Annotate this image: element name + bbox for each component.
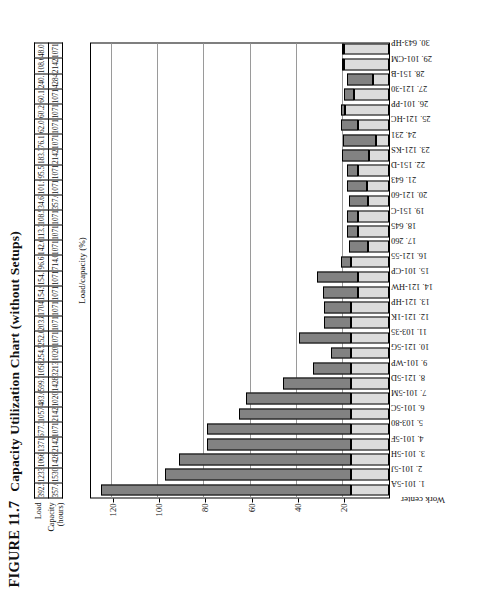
bar-segment-base [351,392,389,404]
x-tick-label: 21. 643 [391,174,416,183]
bar-segment-top [207,423,351,435]
bar-segment-base [351,362,389,374]
y-tick-label: 120 [108,503,118,516]
bar [207,423,389,435]
bar-segment-top [317,271,357,283]
table-cell-capacity: 1530.0 [49,467,63,482]
bar-segment-base [368,195,389,207]
table-cell-load: 76.1 [35,134,49,149]
x-tick-label: 5. 103-80 [391,417,423,426]
bar-segment-top [347,210,357,222]
table-cell-capacity: 2142.0 [49,149,63,164]
table-cell-capacity: 1071.0 [49,210,63,225]
bar-segment-top [347,180,367,192]
y-tick-label: 80 [200,503,210,512]
bar-segment-base [358,286,389,298]
bar [341,104,389,116]
table-cell-capacity: 1071.0 [49,103,63,118]
bar-segment-top [324,316,350,328]
table-cell-capacity: 1071.0 [49,225,63,240]
bar [246,392,389,404]
table-cell-capacity: 10710.0 [49,300,63,315]
bar-segment-top [341,119,358,131]
x-tick-label: 26. 101-PP [391,98,428,107]
table-cell-load: 1057.3 [35,407,49,422]
table-cell-load: 183.3 [35,149,49,164]
bar [283,377,389,389]
table-row-label-load: Load [35,502,44,519]
table-cell-load: 96.6 [35,255,49,270]
table-cell-capacity: 714.0 [49,255,63,270]
bar-segment-top [207,438,351,450]
bar [349,195,389,207]
x-axis-labels: 1. 101-5A2. 101-5J3. 101-5H4. 101-5F5. 1… [391,42,478,498]
bar-segment-top [324,301,350,313]
bar [343,134,389,146]
bar [342,149,389,161]
x-tick-label: 25. 121-HC [391,113,431,122]
bar-segment-base [344,58,389,70]
table-cell-capacity: 1071.0 [49,179,63,194]
capacity-utilization-chart: Load/capacity (%) 20406080100120 1. 101-… [90,42,390,498]
bar-segment-top [323,286,358,298]
bar [165,468,389,480]
x-tick-label: 22. 151-D [391,159,425,168]
y-tick-label: 100 [154,503,164,516]
bar [343,43,389,55]
x-tick-label: 11. 103-35 [391,326,427,335]
y-tick-mark [205,498,206,502]
bar-segment-base [351,423,389,435]
bar [239,408,389,420]
x-tick-label: 24. 231 [391,129,416,138]
figure-number: FIGURE 11.7 [6,500,22,587]
bar-segment-top [343,134,376,146]
y-axis-title: Load/capacity (%) [77,42,87,498]
bar-segment-base [351,438,389,450]
table-cell-capacity: 357.0 [49,194,63,209]
table-cell-load: 108.5 [35,210,49,225]
table-cell-capacity: 1428.0 [49,452,63,467]
y-tick-mark [252,498,253,502]
table-cell-capacity: 4284.0 [49,73,63,88]
table-cell-load: 392.5 [35,482,49,497]
bar-segment-top [342,43,344,55]
table-cell-capacity: 1428.0 [49,376,63,391]
bar-segment-top [344,88,354,100]
table-cell-capacity: 1071.0 [49,270,63,285]
y-tick-mark [298,498,299,502]
table-cell-load: 95.5 [35,164,49,179]
bar-segment-base [344,43,389,55]
bar-segment-top [246,392,351,404]
x-tick-label: 3. 101-5H [391,448,425,457]
bar-segment-base [351,408,389,420]
bar [313,362,389,374]
table-cell-load: 203.8 [35,316,49,331]
table-cell-capacity: 1071.0 [49,331,63,346]
bar-segment-base [358,271,389,283]
table-cell-load: 677.3 [35,422,49,437]
bar-segment-top [347,225,357,237]
bar [341,256,389,268]
table-cell-capacity: 1071.0 [49,285,63,300]
x-tick-label: 1. 101-5A [391,478,425,487]
x-tick-label: 13. 121-HP [391,296,430,305]
table-cell-load: 154.3 [35,270,49,285]
bar-segment-top [342,58,344,70]
table-cell-load: 599.7 [35,376,49,391]
bar-segment-base [351,316,389,328]
table-cell-load: 1066.6 [35,452,49,467]
bar-segment-top [347,164,357,176]
table-cell-load: 142.6 [35,240,49,255]
x-tick-label: 8. 121-5D [391,372,425,381]
bar-segment-base [358,210,389,222]
x-tick-label: 2. 101-5J [391,463,422,472]
bar-segment-top [313,362,351,374]
table-cell-load: 60.2 [35,103,49,118]
table-cell-load: 1704.0 [35,300,49,315]
table-cell-capacity: 2142.0 [49,407,63,422]
x-tick-label: 28. 151-B [391,68,425,77]
x-tick-label: 16. 121-55 [391,250,427,259]
bar-segment-base [358,164,389,176]
bar-segment-base [354,88,389,100]
table-cell-capacity: 1071.0 [49,119,63,134]
